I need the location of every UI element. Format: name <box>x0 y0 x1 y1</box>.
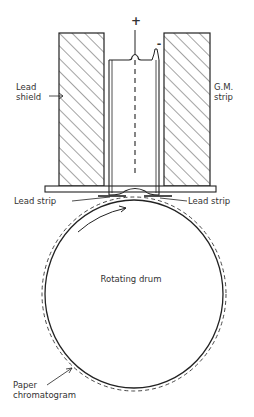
paper-label-line2: chromatogram <box>13 390 76 400</box>
paper-chromatogram <box>42 197 226 391</box>
lead-strip-right-label: Lead strip <box>188 196 230 206</box>
rotation-arrow-icon <box>78 206 126 232</box>
diagram-canvas: + - Lead shield G.M. strip Lead strip Le… <box>0 0 254 417</box>
anode-plus-sign: + <box>131 14 141 28</box>
left-lead-shield <box>59 33 104 186</box>
lead-strip-left-label: Lead strip <box>14 196 56 206</box>
rotating-drum <box>45 200 223 388</box>
cathode-minus-sign: - <box>157 37 162 50</box>
gm-strip-label-line1: G.M. <box>214 82 233 92</box>
right-lead-shield <box>164 33 210 186</box>
lead-strip-left-leader <box>72 197 110 201</box>
paper-label-line1: Paper <box>13 380 38 390</box>
gm-strip-label-line2: strip <box>214 92 233 102</box>
gm-tube <box>109 30 159 195</box>
drum-label: Rotating drum <box>100 274 161 284</box>
lead-strip-right-leader <box>160 198 187 201</box>
paper-leader <box>47 368 72 385</box>
lead-shield-label-line2: shield <box>16 92 41 102</box>
lead-shield-label-line1: Lead <box>16 82 36 92</box>
